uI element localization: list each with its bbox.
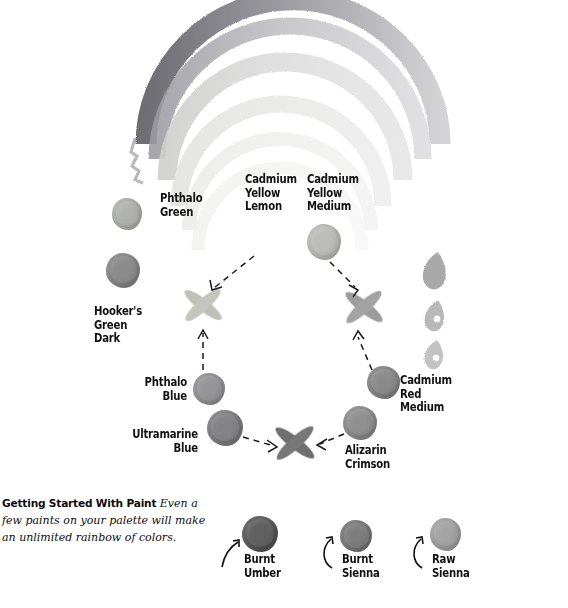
drip-small bbox=[424, 340, 443, 369]
pigment-blob-hookers-green-dark bbox=[106, 253, 140, 288]
pigment-blob-phthalo-green bbox=[112, 198, 142, 230]
caption-lead: Getting Started With Paint bbox=[2, 497, 156, 509]
pigment-blob-ultramarine-blue bbox=[207, 410, 243, 446]
pigment-label-burnt-umber: Burnt Umber bbox=[244, 552, 323, 580]
mix-swatch-violet bbox=[271, 423, 319, 465]
pigment-label-cadmium-red-medium: Cadmium Red Medium bbox=[400, 374, 470, 415]
pigment-blob-alizarin-crimson bbox=[343, 406, 377, 440]
band-violet bbox=[146, 0, 440, 144]
drip-group bbox=[423, 252, 446, 369]
band-blue bbox=[157, 26, 423, 159]
curved-arrow-raw-sienna bbox=[408, 534, 434, 570]
mix-swatch-green bbox=[180, 283, 226, 327]
pigment-label-alizarin-crimson: Alizarin Crimson bbox=[345, 444, 415, 471]
arrowhead-red-to-orange-mix bbox=[353, 331, 364, 340]
pigment-label-ultramarine-blue: Ultramarine Blue bbox=[99, 428, 198, 455]
band-green bbox=[167, 62, 403, 180]
arrow-alizarin-to-violet bbox=[320, 434, 344, 444]
pigment-blob-phthalo-blue bbox=[193, 373, 225, 405]
pigment-label-cadmium-yellow-medium: Cadmium Yellow Medium bbox=[307, 173, 377, 214]
pigment-blob-raw-sienna bbox=[430, 518, 461, 551]
arc-left-ragged-edge bbox=[131, 138, 143, 183]
pigment-label-raw-sienna: Raw Sienna bbox=[432, 552, 511, 580]
pigment-label-phthalo-blue: Phthalo Blue bbox=[106, 376, 187, 403]
earth-pigment-raw-sienna: Raw Sienna bbox=[405, 508, 525, 604]
arrow-ultramarine-to-violet bbox=[243, 437, 274, 446]
drip-medium bbox=[425, 300, 445, 331]
arrow-yellow-medium-to-orange bbox=[330, 262, 355, 287]
drip-large bbox=[423, 252, 446, 289]
figure-page: Phthalo Green Hooker's Green Dark Cadmiu… bbox=[0, 0, 568, 608]
figure-caption: Getting Started With Paint Even a few pa… bbox=[2, 495, 207, 546]
pigment-label-hookers-green-dark: Hooker's Green Dark bbox=[94, 305, 173, 346]
pigment-label-phthalo-green: Phthalo Green bbox=[160, 192, 239, 219]
pigment-blob-cadmium-yellow-medium bbox=[307, 224, 341, 260]
mix-swatch-orange bbox=[341, 285, 387, 329]
pigment-label-cadmium-yellow-lemon: Cadmium Yellow Lemon bbox=[245, 173, 315, 214]
arrow-cad-red-to-orange bbox=[358, 337, 372, 370]
curved-arrow-burnt-sienna bbox=[318, 534, 344, 570]
arrowhead-blue-to-green-mix bbox=[198, 330, 208, 339]
pigment-blob-burnt-sienna bbox=[340, 520, 372, 552]
pigment-blob-cadmium-red-medium bbox=[367, 366, 400, 399]
